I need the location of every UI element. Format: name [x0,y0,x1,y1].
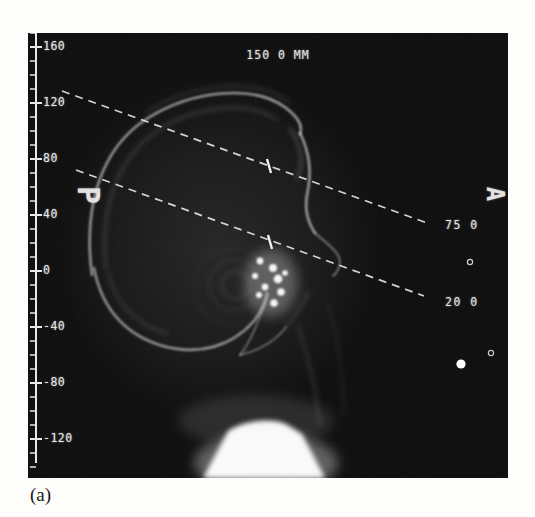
ruler-label: -120 [43,433,73,445]
ruler-label: 160 [43,41,65,53]
figure-page: 150 0 MM P A 75 0 20 0 16012080400-40-80… [0,0,535,517]
skull-radiograph-art [28,33,508,478]
orientation-label-anterior: A [481,181,507,207]
orientation-label-posterior: P [73,180,103,210]
film-grain-overlay [28,33,508,478]
scan-width-label: 150 0 MM [198,50,358,62]
ruler-label: 40 [43,209,58,221]
ruler-label: 120 [43,97,65,109]
ruler-label: 0 [43,265,50,277]
subfigure-caption: (a) [30,484,51,506]
ruler-label: 80 [43,153,58,165]
scan-line-upper-position-label: 75 0 [445,220,493,232]
scan-line-lower-position-label: 20 0 [445,297,493,309]
ct-scout-radiograph: 150 0 MM P A 75 0 20 0 16012080400-40-80… [28,33,508,478]
ruler-label: -40 [43,321,65,333]
ruler-label: -80 [43,377,65,389]
